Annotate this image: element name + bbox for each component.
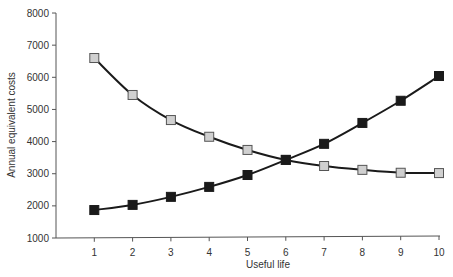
filled-square-marker (358, 118, 367, 127)
filled-square-marker (205, 182, 214, 191)
x-tick-label: 10 (433, 247, 445, 258)
open-square-marker (358, 165, 367, 174)
series-line (94, 76, 439, 210)
filled-square-marker (281, 155, 290, 164)
chart: 10002000300040005000600070008000 1234567… (0, 0, 453, 277)
open-square-marker (205, 132, 214, 141)
filled-square-marker (128, 200, 137, 209)
x-tick-label: 3 (168, 247, 174, 258)
y-tick-label: 6000 (27, 72, 50, 83)
x-tick-label: 6 (283, 247, 289, 258)
y-axis: 10002000300040005000600070008000 (27, 8, 56, 244)
x-tick-label: 9 (398, 247, 404, 258)
open-square-marker (396, 168, 405, 177)
plot-area (90, 54, 444, 215)
open-square-marker (435, 169, 444, 178)
series-line (94, 58, 439, 173)
filled-square-marker (243, 171, 252, 180)
y-tick-label: 2000 (27, 200, 50, 211)
x-axis: 12345678910 (56, 236, 445, 258)
open-square-marker (320, 162, 329, 171)
filled-square-marker (166, 192, 175, 201)
y-tick-label: 1000 (27, 233, 50, 244)
filled-square-marker (90, 206, 99, 215)
x-tick-label: 2 (130, 247, 136, 258)
x-tick-label: 5 (245, 247, 251, 258)
y-tick-label: 7000 (27, 40, 50, 51)
x-tick-label: 4 (206, 247, 212, 258)
y-tick-label: 4000 (27, 136, 50, 147)
open-square-marker (166, 116, 175, 125)
y-tick-label: 8000 (27, 8, 50, 19)
filled-square-marker (320, 139, 329, 148)
filled-square-marker (435, 72, 444, 81)
open-square-marker (128, 90, 137, 99)
x-tick-label: 8 (360, 247, 366, 258)
x-axis-title: Useful life (246, 259, 290, 270)
open-square-marker (243, 145, 252, 154)
y-axis-title: Annual equivalent costs (6, 72, 17, 178)
x-tick-label: 7 (321, 247, 327, 258)
open-square-marker (90, 54, 99, 63)
y-tick-label: 5000 (27, 104, 50, 115)
filled-square-marker (396, 96, 405, 105)
y-tick-label: 3000 (27, 168, 50, 179)
x-tick-label: 1 (92, 247, 98, 258)
